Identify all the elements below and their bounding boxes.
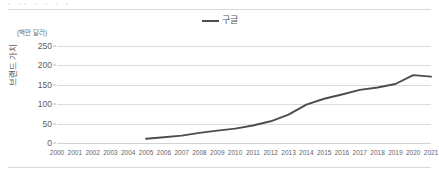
x-tick-label-2003: 2003: [103, 148, 117, 158]
y-tick-label-200: 200: [38, 61, 52, 70]
chart-legend: 구글: [0, 15, 439, 26]
x-tick-label-2005: 2005: [139, 148, 153, 158]
y-tick-mark-200: [53, 65, 56, 66]
y-tick-mark-100: [53, 104, 56, 105]
x-axis-ticks: 2000200120022003200420052006200720082009…: [57, 148, 431, 160]
x-tick-label-2000: 2000: [50, 148, 64, 158]
x-tick-label-2008: 2008: [192, 148, 206, 158]
y-axis-unit-caption: (백만 달러): [17, 28, 47, 37]
x-tick-label-2012: 2012: [263, 148, 277, 158]
x-tick-label-2021: 2021: [424, 148, 438, 158]
series-line-google: [57, 46, 431, 143]
top-divider: [8, 9, 431, 10]
legend-label-google: 구글: [222, 15, 238, 26]
x-tick-label-2010: 2010: [228, 148, 242, 158]
x-tick-label-2001: 2001: [68, 148, 82, 158]
y-tick-label-150: 150: [38, 80, 52, 89]
bottom-divider: [8, 167, 431, 168]
x-tick-label-2002: 2002: [85, 148, 99, 158]
x-tick-label-2006: 2006: [157, 148, 171, 158]
y-tick-mark-150: [53, 84, 56, 85]
x-tick-label-2015: 2015: [317, 148, 331, 158]
x-tick-label-2004: 2004: [121, 148, 135, 158]
x-tick-label-2009: 2009: [210, 148, 224, 158]
y-tick-label-50: 50: [43, 119, 52, 128]
legend-line-swatch-google: [202, 20, 219, 22]
y-tick-mark-250: [53, 46, 56, 47]
plot-area: 050100150200250: [57, 46, 431, 143]
x-tick-label-2019: 2019: [388, 148, 402, 158]
x-tick-label-2020: 2020: [406, 148, 420, 158]
chart-figure: ▫ ▫▫ ▫ ▫ ▫ ▫ 구글 (백만 달러) 브랜드 가치 050100150…: [0, 0, 439, 175]
x-tick-label-2011: 2011: [246, 148, 260, 158]
gridline-0: [57, 143, 431, 144]
x-tick-label-2013: 2013: [281, 148, 295, 158]
y-tick-mark-50: [53, 123, 56, 124]
x-tick-label-2014: 2014: [299, 148, 313, 158]
y-tick-label-0: 0: [47, 139, 52, 148]
x-tick-label-2007: 2007: [174, 148, 188, 158]
y-tick-label-250: 250: [38, 42, 52, 51]
y-tick-label-100: 100: [38, 100, 52, 109]
x-tick-label-2017: 2017: [353, 148, 367, 158]
line-path-구글: [146, 75, 431, 139]
x-tick-label-2018: 2018: [370, 148, 384, 158]
x-tick-label-2016: 2016: [335, 148, 349, 158]
clipped-top-text: ▫ ▫▫ ▫ ▫ ▫ ▫: [8, 0, 208, 8]
y-tick-mark-0: [53, 143, 56, 144]
y-axis-title: 브랜드 가치: [8, 35, 18, 95]
